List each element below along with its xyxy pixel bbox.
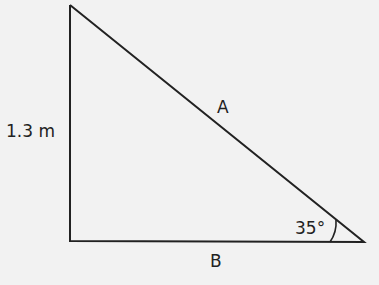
triangle-diagram: 1.3 m A B 35° (0, 0, 379, 285)
vertical-side-label: 1.3 m (6, 121, 55, 141)
angle-label: 35° (295, 218, 325, 238)
hypotenuse-label: A (217, 97, 229, 117)
base-label: B (210, 251, 222, 271)
